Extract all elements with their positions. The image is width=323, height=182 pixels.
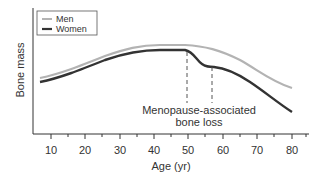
tick-label: 50 — [182, 144, 194, 156]
x-ticks — [51, 134, 306, 139]
y-axis-title: Bone mass — [14, 42, 26, 98]
tick-label: 20 — [79, 144, 91, 156]
tick-label: 80 — [286, 144, 298, 156]
legend: Men Women — [37, 11, 97, 35]
bone-mass-chart: 10 20 30 40 50 60 70 80 Age (yr) Bone ma… — [0, 0, 323, 182]
tick-label: 70 — [251, 144, 263, 156]
annotation-line-1: Menopause-associated — [142, 104, 256, 116]
women-curve — [40, 50, 292, 112]
tick-label: 30 — [114, 144, 126, 156]
tick-label: 60 — [217, 144, 229, 156]
x-axis-title: Age (yr) — [151, 160, 190, 172]
men-curve — [40, 45, 292, 88]
annotation-line-2: bone loss — [175, 116, 223, 128]
tick-label: 40 — [148, 144, 160, 156]
legend-men-label: Men — [56, 14, 74, 24]
legend-women-label: Women — [56, 24, 87, 34]
tick-label: 10 — [45, 144, 57, 156]
x-tick-labels: 10 20 30 40 50 60 70 80 — [45, 144, 298, 156]
